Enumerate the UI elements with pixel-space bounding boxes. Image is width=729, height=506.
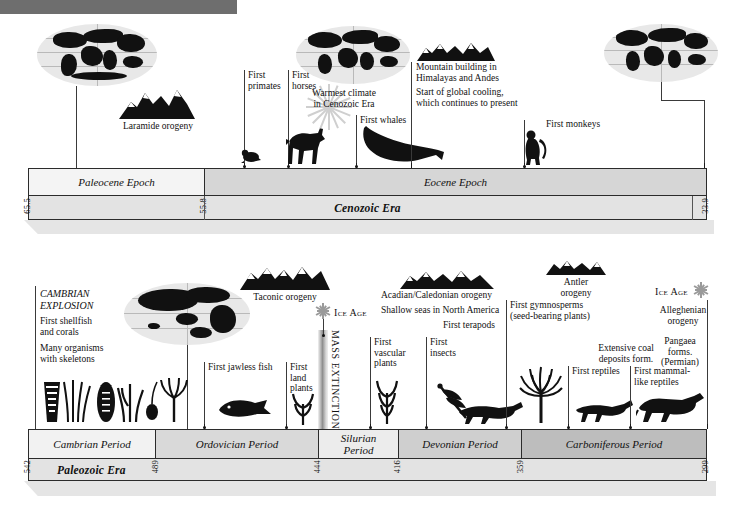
era-shadow bbox=[24, 481, 716, 496]
globe-icon bbox=[124, 283, 250, 345]
period-cambrian[interactable]: Cambrian Period bbox=[29, 430, 156, 458]
period-devonian[interactable]: Devonian Period bbox=[399, 430, 522, 458]
event-label-taconic: Taconic orogeny bbox=[233, 292, 337, 303]
event-label-acadian: Acadian/Caledonian orogeny bbox=[381, 290, 492, 301]
animal-silhouette-whale bbox=[358, 124, 444, 166]
animal-silhouette-mammal-like-reptile bbox=[636, 392, 706, 424]
animal-silhouette-monkey bbox=[519, 128, 547, 166]
plant-silhouette-vascular bbox=[374, 375, 400, 425]
timeline-tick bbox=[506, 424, 507, 429]
snowflake-icon bbox=[693, 282, 709, 298]
plant-silhouette-land-plant bbox=[290, 388, 316, 426]
fossil-silhouettes-cambrian bbox=[40, 372, 190, 424]
age-label: 542 bbox=[22, 460, 32, 473]
era-paleozoic[interactable]: Paleozoic Era bbox=[28, 459, 707, 481]
timeline-tick bbox=[288, 163, 289, 168]
mountain-icon bbox=[545, 258, 607, 276]
event-label-ice-age-silurian: Ice Age bbox=[334, 308, 367, 319]
leader-line bbox=[370, 337, 371, 429]
timeline-tick bbox=[630, 424, 631, 429]
event-label-gymnosperms: First gymnosperms (seed-bearing plants) bbox=[510, 300, 590, 321]
snowflake-icon bbox=[315, 303, 331, 319]
age-label: 65.5 bbox=[22, 198, 32, 214]
period-carboniferous[interactable]: Carboniferous Period bbox=[522, 430, 706, 458]
era-shadow bbox=[24, 220, 714, 234]
timeline-tick bbox=[524, 163, 525, 168]
era-label: Paleozoic Era bbox=[57, 464, 126, 476]
leader-line bbox=[426, 337, 427, 429]
timeline-tick bbox=[426, 424, 427, 429]
event-label-shallow-seas: Shallow seas in North America bbox=[381, 305, 499, 316]
event-label-first-monkeys: First monkeys bbox=[546, 119, 600, 130]
age-label: 416 bbox=[392, 460, 402, 473]
mountain-icon bbox=[117, 84, 197, 120]
mountain-icon bbox=[416, 40, 496, 62]
epoch-paleocene[interactable]: Paleocene Epoch bbox=[29, 169, 205, 195]
event-label-first-shellfish: First shellfish and corals bbox=[40, 316, 92, 337]
timeline-tick bbox=[370, 424, 371, 429]
period-label: Silurian Period bbox=[341, 432, 376, 456]
epoch-label: Eocene Epoch bbox=[424, 176, 487, 188]
leader-line bbox=[356, 115, 357, 168]
globe-icon bbox=[37, 24, 157, 86]
period-label: Devonian Period bbox=[422, 438, 497, 450]
mass-extinction-label: MASS EXTINCTION bbox=[330, 330, 341, 429]
period-ordovician[interactable]: Ordovician Period bbox=[156, 430, 319, 458]
event-label-himalayas: Mountain building in Himalayas and Andes bbox=[416, 62, 499, 83]
age-label: 489 bbox=[150, 460, 160, 473]
globe-icon bbox=[604, 24, 718, 82]
leader-line bbox=[204, 362, 205, 429]
event-label-ice-age-permian: Ice Age bbox=[655, 287, 688, 298]
leader-line bbox=[506, 300, 507, 429]
era-boundary bbox=[204, 196, 205, 220]
timeline-tick bbox=[707, 424, 708, 429]
timeline-tick bbox=[411, 163, 412, 168]
event-label-antler: Antler orogeny bbox=[536, 277, 616, 298]
leader-line bbox=[35, 286, 36, 429]
plant-silhouette-gymnosperm bbox=[519, 366, 563, 424]
period-silurian[interactable]: Silurian Period bbox=[319, 430, 399, 458]
event-label-first-primates: First primates bbox=[248, 70, 281, 91]
timeline-tick bbox=[356, 163, 357, 168]
age-label: 55.8 bbox=[198, 198, 208, 214]
top-timeline-epoch-bar: Paleocene Epoch Eocene Epoch bbox=[28, 168, 707, 196]
timeline-tick bbox=[704, 163, 705, 168]
event-label-warmest-climate: Warmest climate in Cenozoic Era bbox=[288, 88, 400, 109]
animal-silhouette-primate bbox=[240, 144, 262, 164]
leader-line bbox=[704, 100, 705, 168]
epoch-eocene[interactable]: Eocene Epoch bbox=[205, 169, 706, 195]
event-label-mammal-like-reptiles: First mammal- like reptiles bbox=[634, 366, 690, 387]
leader-line bbox=[76, 86, 77, 168]
event-label-alleghenian: Alleghenian orogeny bbox=[644, 305, 722, 326]
event-label-cambrian-explosion: CAMBRIAN EXPLOSION bbox=[40, 288, 93, 311]
leader-line bbox=[707, 300, 708, 429]
animal-silhouette-fish bbox=[215, 394, 275, 422]
event-label-jawless-fish: First jawless fish bbox=[208, 362, 272, 373]
timeline-tick bbox=[568, 424, 569, 429]
event-label-first-reptiles: First reptiles bbox=[572, 366, 620, 377]
age-label: 33.9 bbox=[700, 198, 710, 214]
animal-silhouette-horse bbox=[284, 126, 328, 166]
leader-line bbox=[661, 82, 662, 100]
animal-silhouette-tetrapod bbox=[455, 396, 525, 426]
mountain-icon bbox=[239, 263, 331, 291]
leader-line bbox=[411, 62, 412, 168]
leader-line bbox=[568, 366, 569, 429]
leader-line bbox=[630, 366, 631, 429]
timeline-tick bbox=[286, 424, 287, 429]
event-label-pangaea: Pangaea forms. (Permian) bbox=[645, 336, 715, 368]
event-label-many-organisms: Many organisms with skeletons bbox=[40, 343, 103, 364]
era-cenozoic[interactable]: Cenozoic Era bbox=[28, 196, 707, 220]
event-dot bbox=[322, 334, 325, 337]
age-label: 444 bbox=[312, 460, 322, 473]
header-bar bbox=[0, 0, 237, 14]
event-label-first-terapods: First terapods bbox=[443, 320, 495, 331]
epoch-label: Paleocene Epoch bbox=[78, 176, 155, 188]
timeline-tick bbox=[244, 163, 245, 168]
era-boundary bbox=[692, 196, 693, 220]
leader-line bbox=[661, 100, 704, 101]
period-label: Cambrian Period bbox=[53, 438, 130, 450]
event-label-laramide: Laramide orogeny bbox=[98, 121, 218, 132]
timeline-tick bbox=[204, 424, 205, 429]
leader-line bbox=[286, 362, 287, 429]
